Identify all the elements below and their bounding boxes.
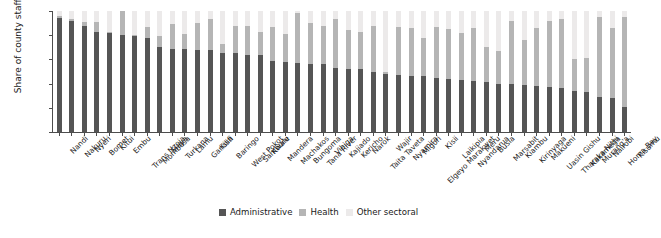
bar-segment: [509, 84, 514, 132]
bar-segment: [157, 11, 162, 36]
bar-column[interactable]: [128, 11, 141, 132]
bar-segment: [346, 30, 351, 69]
y-axis-title: Share of county staff (%): [13, 0, 23, 107]
bar-segment: [509, 11, 514, 21]
x-axis-tick-labels: NandiNakuruNyeriBometKituiEmbuTrans Nzoi…: [53, 134, 631, 196]
bar-column[interactable]: [78, 11, 91, 132]
bar-column[interactable]: [141, 11, 154, 132]
bar-segment: [69, 11, 74, 19]
bar-segment: [258, 55, 263, 132]
bar-column[interactable]: [292, 11, 305, 132]
bar-segment: [57, 18, 62, 132]
bar-segment: [446, 79, 451, 132]
bar-column[interactable]: [430, 11, 443, 132]
bar-segment: [157, 47, 162, 132]
bar-column[interactable]: [254, 11, 267, 132]
bar-column[interactable]: [53, 11, 66, 132]
bar-segment: [484, 82, 489, 132]
bar-column[interactable]: [367, 11, 380, 132]
bar-segment: [396, 11, 401, 27]
bar-segment: [597, 97, 602, 132]
bar-column[interactable]: [606, 11, 619, 132]
bar-column[interactable]: [568, 11, 581, 132]
legend-swatch-icon: [219, 209, 226, 216]
bar-column[interactable]: [216, 11, 229, 132]
bar-segment: [145, 11, 150, 27]
x-axis-line: [52, 132, 631, 133]
bar-column[interactable]: [455, 11, 468, 132]
bar-segment: [559, 88, 564, 132]
bar-segment: [308, 64, 313, 132]
bar-segment: [220, 11, 225, 44]
plot-area: 020406080100: [53, 11, 631, 132]
bar-column[interactable]: [91, 11, 104, 132]
bar-column[interactable]: [342, 11, 355, 132]
bar-column[interactable]: [593, 11, 606, 132]
bar-column[interactable]: [442, 11, 455, 132]
bar-segment: [321, 11, 326, 26]
bar-segment: [195, 50, 200, 132]
bar-segment: [170, 11, 175, 24]
bar-segment: [534, 28, 539, 86]
bar-column[interactable]: [329, 11, 342, 132]
bar-segment: [547, 11, 552, 21]
bar-column[interactable]: [556, 11, 569, 132]
bar-column[interactable]: [191, 11, 204, 132]
bar-column[interactable]: [530, 11, 543, 132]
bar-column[interactable]: [480, 11, 493, 132]
bar-segment: [182, 11, 187, 34]
bar-column[interactable]: [493, 11, 506, 132]
bar-segment: [233, 26, 238, 54]
bar-segment: [245, 55, 250, 132]
bar-column[interactable]: [304, 11, 317, 132]
bar-column[interactable]: [380, 11, 393, 132]
bar-column[interactable]: [179, 11, 192, 132]
bar-column[interactable]: [66, 11, 79, 132]
bar-column[interactable]: [103, 11, 116, 132]
bar-column[interactable]: [468, 11, 481, 132]
x-tick-label: Kisii: [444, 134, 461, 151]
bar-segment: [358, 32, 363, 70]
bar-segment: [496, 84, 501, 132]
bar-column[interactable]: [267, 11, 280, 132]
bar-segment: [295, 63, 300, 132]
bar-segment: [471, 28, 476, 81]
bar-segment: [258, 11, 263, 32]
bar-segment: [233, 53, 238, 132]
bar-column[interactable]: [543, 11, 556, 132]
bar-column[interactable]: [417, 11, 430, 132]
bar-segment: [522, 11, 527, 40]
bar-segment: [195, 23, 200, 50]
bar-column[interactable]: [405, 11, 418, 132]
legend-item[interactable]: Other sectoral: [346, 208, 418, 217]
bar-column[interactable]: [229, 11, 242, 132]
bar-segment: [208, 11, 213, 19]
bar-segment: [208, 19, 213, 49]
bar-column[interactable]: [279, 11, 292, 132]
bar-segment: [522, 40, 527, 85]
bar-segment: [69, 21, 74, 132]
bar-column[interactable]: [166, 11, 179, 132]
bar-column[interactable]: [392, 11, 405, 132]
bar-column[interactable]: [116, 11, 129, 132]
bar-column[interactable]: [154, 11, 167, 132]
bar-column[interactable]: [204, 11, 217, 132]
bar-column[interactable]: [518, 11, 531, 132]
bar-segment: [270, 27, 275, 61]
bar-column[interactable]: [618, 11, 631, 132]
bar-column[interactable]: [505, 11, 518, 132]
bar-segment: [346, 69, 351, 132]
chart-legend: AdministrativeHealthOther sectoral: [0, 208, 637, 217]
bar-segment: [120, 35, 125, 132]
legend-item[interactable]: Administrative: [219, 208, 293, 217]
bar-column[interactable]: [241, 11, 254, 132]
bar-segment: [132, 11, 137, 35]
bar-segment: [547, 87, 552, 132]
legend-item[interactable]: Health: [299, 208, 338, 217]
bar-column[interactable]: [355, 11, 368, 132]
bar-segment: [459, 11, 464, 33]
bar-segment: [496, 51, 501, 84]
bar-column[interactable]: [317, 11, 330, 132]
bar-segment: [333, 11, 338, 19]
bar-column[interactable]: [581, 11, 594, 132]
